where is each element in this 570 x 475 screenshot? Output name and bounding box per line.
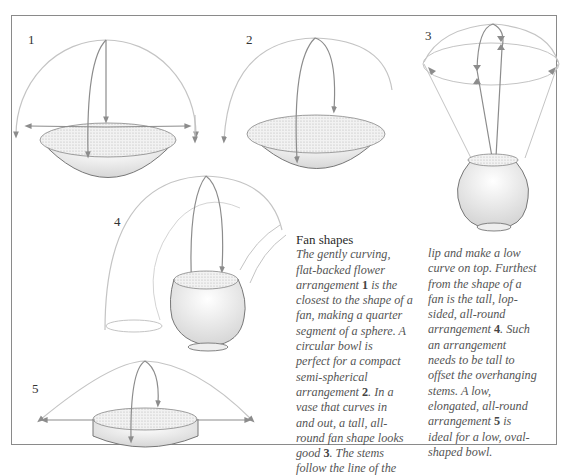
article-column-2: lip and make a low curve on top. Furthes… bbox=[428, 246, 556, 460]
figure-3-number: 3 bbox=[425, 28, 432, 44]
figure-5-number: 5 bbox=[32, 381, 39, 397]
figure-1-illustration bbox=[16, 40, 196, 178]
article-body-2: lip and make a low curve on top. Furthes… bbox=[428, 246, 556, 460]
figure-3-illustration bbox=[423, 24, 559, 231]
article-column-1: Fan shapes The gently curving, flat-back… bbox=[296, 232, 424, 475]
article-heading: Fan shapes bbox=[296, 232, 424, 247]
figure-4-number: 4 bbox=[114, 214, 121, 230]
figure-2-number: 2 bbox=[246, 32, 253, 48]
figure-4-illustration bbox=[105, 176, 286, 351]
article-body-1: The gently curving, flat-backed flower a… bbox=[296, 247, 424, 475]
figure-1-number: 1 bbox=[28, 32, 35, 48]
figure-5-illustration bbox=[40, 361, 252, 447]
figure-2-illustration bbox=[195, 38, 392, 169]
